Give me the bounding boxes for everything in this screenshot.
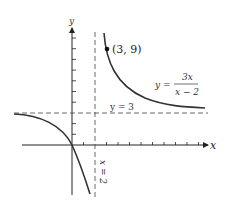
curve-left-branch xyxy=(14,114,90,194)
point-label: (3, 9) xyxy=(112,43,142,56)
svg-text:3x: 3x xyxy=(182,72,193,82)
vertical-asymptote-label: x = 2 xyxy=(98,160,108,184)
y-axis-label: y xyxy=(68,16,75,26)
rational-function-graph: (3, 9) y x y = 3 y = 3x x − 2 x = 2 xyxy=(0,0,227,204)
horizontal-asymptote-label: y = 3 xyxy=(109,102,134,112)
point-3-9 xyxy=(105,47,110,52)
function-label: y = 3x x − 2 xyxy=(154,72,199,97)
y-axis-ticks xyxy=(72,38,76,134)
svg-text:y =: y = xyxy=(154,80,171,90)
svg-text:x − 2: x − 2 xyxy=(175,87,199,97)
x-axis-label: x xyxy=(210,139,217,152)
